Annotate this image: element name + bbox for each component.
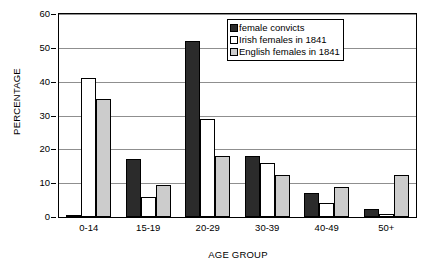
x-axis-tick-label: 30-39 bbox=[238, 222, 298, 233]
color-swatch-icon bbox=[230, 36, 238, 44]
bar[interactable] bbox=[275, 175, 290, 217]
y-axis-tick-label: 60 bbox=[39, 9, 50, 19]
legend-item-label: Irish females in 1841 bbox=[239, 34, 327, 46]
legend: female convictsIrish females in 1841Engl… bbox=[227, 19, 344, 61]
y-axis-tick-mark bbox=[51, 82, 56, 83]
bar[interactable] bbox=[126, 159, 141, 217]
y-axis-tick-mark bbox=[51, 48, 56, 49]
y-axis-tick-label: 50 bbox=[39, 43, 50, 53]
bar[interactable] bbox=[394, 175, 409, 217]
color-swatch-icon bbox=[230, 48, 238, 56]
bar[interactable] bbox=[200, 119, 215, 217]
y-axis-tick-mark bbox=[51, 183, 56, 184]
bar[interactable] bbox=[215, 156, 230, 217]
legend-item-label: English females in 1841 bbox=[239, 46, 340, 58]
x-axis-tick-label: 20-29 bbox=[178, 222, 238, 233]
color-swatch-icon bbox=[230, 24, 238, 32]
y-axis-tick-label: 30 bbox=[39, 111, 50, 121]
bar-group bbox=[119, 14, 179, 217]
x-axis-tick-labels: 0-1415-1920-2930-3940-4950+ bbox=[59, 222, 416, 233]
y-axis-tick-label: 40 bbox=[39, 77, 50, 87]
bar[interactable] bbox=[245, 156, 260, 217]
bar[interactable] bbox=[185, 41, 200, 217]
y-axis-tick-mark bbox=[51, 149, 56, 150]
bar-group bbox=[357, 14, 417, 217]
bar[interactable] bbox=[379, 214, 394, 217]
x-axis-tick-label: 15-19 bbox=[119, 222, 179, 233]
y-axis-tick-labels: 0102030405060 bbox=[0, 13, 56, 218]
bar[interactable] bbox=[364, 209, 379, 217]
y-axis-tick-label: 10 bbox=[39, 178, 50, 188]
bar[interactable] bbox=[260, 163, 275, 217]
bar[interactable] bbox=[334, 187, 349, 217]
legend-item-label: female convicts bbox=[239, 22, 304, 34]
bar[interactable] bbox=[156, 185, 171, 217]
bar[interactable] bbox=[304, 193, 319, 217]
x-axis-tick-label: 50+ bbox=[357, 222, 417, 233]
legend-item[interactable]: female convicts bbox=[230, 22, 340, 34]
y-axis-tick-label: 0 bbox=[45, 212, 50, 222]
y-axis-tick-label: 20 bbox=[39, 145, 50, 155]
y-axis-tick-mark bbox=[51, 217, 56, 218]
y-axis-tick-mark bbox=[51, 116, 56, 117]
bar[interactable] bbox=[81, 78, 96, 217]
bar[interactable] bbox=[96, 99, 111, 217]
bar[interactable] bbox=[319, 203, 334, 217]
x-axis-title: AGE GROUP bbox=[58, 249, 418, 260]
y-axis-tick-mark bbox=[51, 14, 56, 15]
bar-chart: PERCENTAGE 0102030405060 0-1415-1920-293… bbox=[0, 0, 428, 269]
x-axis-tick-label: 40-49 bbox=[297, 222, 357, 233]
bar-group bbox=[59, 14, 119, 217]
legend-item[interactable]: English females in 1841 bbox=[230, 46, 340, 58]
bar[interactable] bbox=[66, 215, 81, 217]
bar[interactable] bbox=[141, 197, 156, 217]
legend-item[interactable]: Irish females in 1841 bbox=[230, 34, 340, 46]
x-axis-tick-label: 0-14 bbox=[59, 222, 119, 233]
